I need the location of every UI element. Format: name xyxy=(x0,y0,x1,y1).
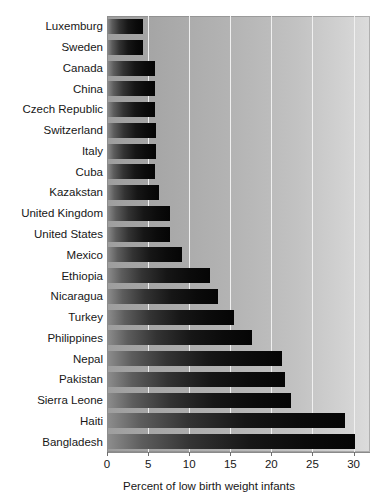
bar-haiti xyxy=(107,413,345,428)
x-tick-label-25: 25 xyxy=(306,458,319,471)
x-axis-title: Percent of low birth weight infants xyxy=(0,479,388,493)
y-label-czech-republic: Czech Republic xyxy=(0,103,103,115)
bar-row xyxy=(107,120,370,141)
bar-nepal xyxy=(107,351,282,366)
y-label-haiti: Haiti xyxy=(0,415,103,427)
bar-row xyxy=(107,58,370,79)
x-tick-15 xyxy=(230,452,231,456)
bar-canada xyxy=(107,61,155,76)
y-label-switzerland: Switzerland xyxy=(0,124,103,136)
bar-row xyxy=(107,369,370,390)
x-tick-5 xyxy=(148,452,149,456)
bar-row xyxy=(107,78,370,99)
bar-row xyxy=(107,182,370,203)
y-label-cuba: Cuba xyxy=(0,166,103,178)
bar-china xyxy=(107,81,155,96)
y-label-nicaragua: Nicaragua xyxy=(0,290,103,302)
bar-row xyxy=(107,327,370,348)
y-label-united-kingdom: United Kingdom xyxy=(0,207,103,219)
bar-mexico xyxy=(107,247,182,262)
bar-row xyxy=(107,431,370,452)
bar-row xyxy=(107,37,370,58)
y-label-luxemburg: Luxemburg xyxy=(0,20,103,32)
bar-united-kingdom xyxy=(107,206,170,221)
bar-bangladesh xyxy=(107,434,355,449)
bar-nicaragua xyxy=(107,289,218,304)
bar-row xyxy=(107,203,370,224)
y-label-china: China xyxy=(0,83,103,95)
bar-ethiopia xyxy=(107,268,210,283)
bar-row xyxy=(107,265,370,286)
y-label-ethiopia: Ethiopia xyxy=(0,270,103,282)
x-axis-title-text: Percent of low birth weight infants xyxy=(123,479,295,493)
y-label-canada: Canada xyxy=(0,62,103,74)
y-label-bangladesh: Bangladesh xyxy=(0,436,103,448)
bar-united-states xyxy=(107,227,170,242)
bar-pakistan xyxy=(107,372,285,387)
bar-cuba xyxy=(107,164,155,179)
bar-row xyxy=(107,348,370,369)
y-axis-category-labels: LuxemburgSwedenCanadaChinaCzech Republic… xyxy=(0,16,103,452)
bar-switzerland xyxy=(107,123,156,138)
x-tick-label-0: 0 xyxy=(104,458,110,471)
x-tick-30 xyxy=(354,452,355,456)
y-label-turkey: Turkey xyxy=(0,311,103,323)
y-label-pakistan: Pakistan xyxy=(0,373,103,385)
plot-area xyxy=(107,16,370,452)
x-tick-label-30: 30 xyxy=(347,458,360,471)
x-tick-label-5: 5 xyxy=(145,458,151,471)
y-label-sierra-leone: Sierra Leone xyxy=(0,394,103,406)
bar-row xyxy=(107,224,370,245)
bar-kazakstan xyxy=(107,185,159,200)
y-label-sweden: Sweden xyxy=(0,41,103,53)
bar-row xyxy=(107,99,370,120)
bar-italy xyxy=(107,144,156,159)
x-tick-25 xyxy=(312,452,313,456)
x-tick-label-20: 20 xyxy=(265,458,278,471)
bar-czech-republic xyxy=(107,102,155,117)
bar-sweden xyxy=(107,40,143,55)
y-label-kazakstan: Kazakstan xyxy=(0,186,103,198)
y-label-italy: Italy xyxy=(0,145,103,157)
bar-chart-figure: LuxemburgSwedenCanadaChinaCzech Republic… xyxy=(0,0,388,499)
bar-row xyxy=(107,390,370,411)
y-label-nepal: Nepal xyxy=(0,353,103,365)
bar-luxemburg xyxy=(107,19,143,34)
y-label-philippines: Philippines xyxy=(0,332,103,344)
x-tick-20 xyxy=(271,452,272,456)
y-label-united-states: United States xyxy=(0,228,103,240)
bar-row xyxy=(107,141,370,162)
x-tick-0 xyxy=(107,452,108,456)
x-axis-line xyxy=(107,452,370,453)
bar-row xyxy=(107,16,370,37)
x-tick-label-10: 10 xyxy=(183,458,196,471)
bar-philippines xyxy=(107,330,252,345)
x-tick-label-15: 15 xyxy=(224,458,237,471)
bar-row xyxy=(107,161,370,182)
bar-row xyxy=(107,244,370,265)
y-label-mexico: Mexico xyxy=(0,249,103,261)
x-tick-10 xyxy=(189,452,190,456)
bar-turkey xyxy=(107,310,234,325)
bar-row xyxy=(107,286,370,307)
bar-row xyxy=(107,307,370,328)
bar-sierra-leone xyxy=(107,393,291,408)
bar-row xyxy=(107,410,370,431)
